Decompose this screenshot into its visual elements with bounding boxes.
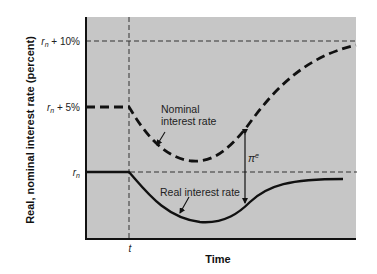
nominal-rate-label-line2: interest rate	[161, 115, 217, 127]
y-axis-title: Real, nominal interest rate (percent)	[24, 36, 36, 224]
ytick-rn: rn	[73, 167, 80, 179]
x-axis-title: Time	[205, 253, 230, 265]
xtick-t: t	[129, 243, 133, 254]
chart: rn + 10% rn + 5% rn t Nominal interest r…	[0, 0, 377, 274]
ytick-rn-plus-5: rn + 5%	[47, 102, 80, 114]
real-rate-label: Real interest rate	[160, 186, 240, 198]
ytick-rn-plus-10: rn + 10%	[41, 36, 80, 48]
plot-area	[86, 17, 356, 239]
nominal-rate-label-line1: Nominal	[161, 103, 200, 115]
